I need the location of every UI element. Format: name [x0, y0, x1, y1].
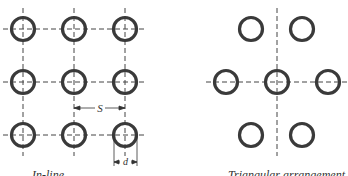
diameter-label: d — [123, 156, 129, 167]
right-panel-triangular — [206, 8, 348, 156]
centerlines — [206, 8, 348, 156]
spacing-label: S — [97, 102, 103, 114]
tube-circle — [240, 18, 263, 41]
caption-triangular: Triangular arrangement — [228, 168, 345, 176]
centerlines — [3, 8, 145, 156]
tube-circle — [240, 124, 263, 147]
tube-circle — [291, 124, 314, 147]
tube-circle — [63, 124, 86, 147]
tube-circle — [291, 18, 314, 41]
left-panel-inline: S d — [3, 8, 145, 167]
caption-inline: In-line — [32, 168, 64, 176]
tube-arrangement-diagram: S d — [0, 0, 348, 176]
